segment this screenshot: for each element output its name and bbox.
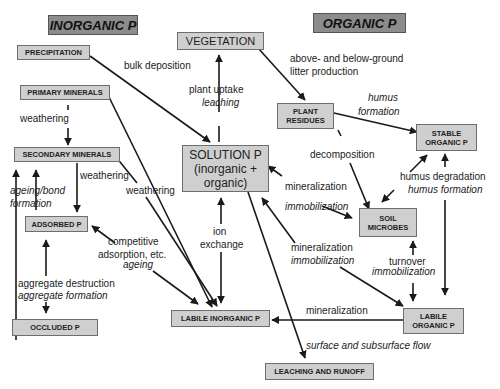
box-precipitation: PRECIPITATION	[17, 45, 90, 60]
label-decomposition: decomposition	[310, 149, 374, 161]
label-humus-formation-1: humus	[368, 92, 398, 104]
label-humus-formation-3: humus formation	[408, 184, 482, 196]
label-mineralization-microbes: mineralization	[285, 181, 347, 193]
soil-microbes-line-1: SOIL	[379, 214, 397, 223]
box-adsorbed-p: ADSORBED P	[25, 216, 88, 232]
soil-microbes-line-2: MICROBES	[368, 223, 408, 232]
label-surface-subsurface-flow: surface and subsurface flow	[306, 340, 431, 352]
label-aggregate-destruction: aggregate destruction	[18, 278, 115, 290]
box-solution-p: SOLUTION P (inorganic + organic)	[182, 145, 269, 192]
label-ageing-bond-1: ageing/bond	[10, 185, 65, 197]
label-litter-1: above- and below-ground	[290, 53, 403, 65]
label-aggregate-formation: aggregate formation	[18, 290, 108, 302]
label-ageing-bond-2: formation	[10, 198, 52, 210]
label-weathering-primary: weathering	[20, 113, 69, 125]
labile-organic-line-1: LABILE	[420, 312, 447, 321]
label-bulk-deposition: bulk deposition	[124, 60, 191, 72]
box-occluded-p: OCCLUDED P	[12, 319, 98, 336]
label-leaching: leaching	[202, 97, 239, 109]
solution-line-2: (inorganic +	[194, 162, 257, 176]
heading-inorganic-p: INORGANIC P	[48, 15, 138, 35]
label-competitive-adsorption-1: competitive	[108, 236, 159, 248]
solution-line-3: organic)	[204, 176, 247, 190]
label-mineralization-organic-to-inorganic: mineralization	[306, 305, 368, 317]
plant-residues-line-1: PLANT	[293, 107, 318, 116]
box-vegetation: VEGETATION	[177, 32, 264, 50]
box-primary-minerals: PRIMARY MINERALS	[20, 85, 110, 100]
plant-residues-line-2: RESIDUES	[286, 116, 324, 125]
label-humus-formation-2: formation	[358, 106, 400, 118]
box-labile-inorganic-p: LABILE INORGANIC P	[171, 310, 270, 327]
label-plant-uptake: plant uptake	[189, 84, 244, 96]
box-plant-residues: PLANT RESIDUES	[277, 103, 334, 129]
box-secondary-minerals: SECONDARY MINERALS	[14, 147, 120, 162]
label-ion: ion	[213, 226, 226, 238]
label-ageing: ageing	[123, 259, 153, 271]
stable-organic-line-1: STABLE	[432, 129, 461, 138]
labile-organic-line-2: ORGANIC P	[412, 321, 455, 330]
label-immobilization-microbes: immobilization	[285, 201, 348, 213]
label-weathering-secondary: weathering	[80, 170, 129, 182]
box-leaching-and-runoff: LEACHING AND RUNOFF	[265, 363, 374, 380]
label-humus-degradation: humus degradation	[400, 171, 486, 183]
solution-line-1: SOLUTION P	[189, 148, 262, 162]
phosphorus-cycle-diagram: INORGANIC P ORGANIC P PRECIPITATION VEGE…	[0, 0, 500, 389]
label-immobilization-labile: immobilization	[291, 255, 354, 267]
heading-organic-p: ORGANIC P	[313, 13, 406, 33]
box-stable-organic-p: STABLE ORGANIC P	[416, 124, 477, 151]
label-immobilization-turnover: immobilization	[372, 266, 435, 278]
box-labile-organic-p: LABILE ORGANIC P	[403, 308, 464, 334]
stable-organic-line-2: ORGANIC P	[425, 138, 468, 147]
label-exchange: exchange	[200, 239, 243, 251]
label-litter-2: litter production	[290, 66, 358, 78]
box-soil-microbes: SOIL MICROBES	[359, 208, 417, 237]
label-weathering-primary-to-labile: weathering	[126, 185, 175, 197]
label-mineralization-labile: mineralization	[291, 242, 353, 254]
